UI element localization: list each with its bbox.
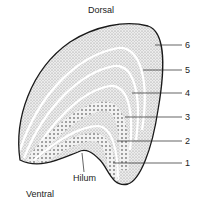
starch-grain-diagram — [0, 0, 201, 206]
hilum-label: Hilum — [73, 174, 96, 183]
layer-4-label: 4 — [185, 89, 190, 98]
layer-1-label: 1 — [185, 159, 190, 168]
layer-5-label: 5 — [185, 66, 190, 75]
layer-3-label: 3 — [185, 113, 190, 122]
ventral-label: Ventral — [26, 190, 54, 199]
dorsal-label: Dorsal — [88, 6, 114, 15]
layer-2-label: 2 — [185, 137, 190, 146]
layer-6-label: 6 — [185, 41, 190, 50]
grain-body — [0, 0, 201, 206]
